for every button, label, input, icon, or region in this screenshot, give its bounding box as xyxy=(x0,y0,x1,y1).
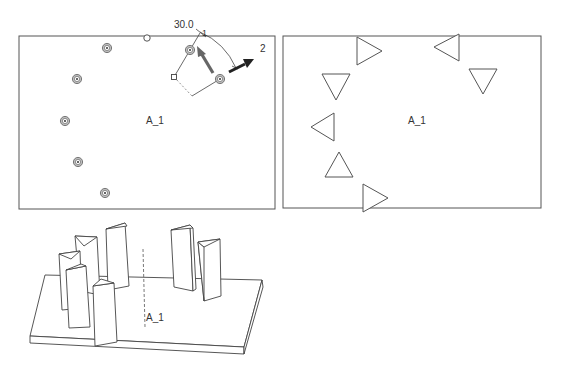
hole-marker[interactable] xyxy=(215,74,224,83)
axis-label-a1: A_1 xyxy=(146,312,164,323)
hole-marker[interactable] xyxy=(185,45,194,54)
top-view-panel: 30.0 1 2 A_1 xyxy=(19,19,275,209)
hole-marker[interactable] xyxy=(102,43,111,52)
hole-marker[interactable] xyxy=(72,74,81,83)
prism xyxy=(66,264,90,328)
hole-marker[interactable] xyxy=(100,188,109,197)
axis-label-a1: A_1 xyxy=(146,115,164,126)
hole-marker[interactable] xyxy=(60,116,69,125)
isometric-view: A_1 xyxy=(30,223,263,354)
callout-2-label: 2 xyxy=(260,43,266,54)
drawing-canvas: 30.0 1 2 A_1 A_1 xyxy=(0,0,564,372)
pattern-origin-marker[interactable] xyxy=(144,35,150,41)
prism xyxy=(171,225,196,291)
hole-marker[interactable] xyxy=(73,157,82,166)
callout-1-label: 1 xyxy=(202,28,207,38)
corner-handle[interactable] xyxy=(172,75,177,80)
pattern-view-panel: A_1 xyxy=(283,34,541,212)
prism xyxy=(93,279,117,346)
axis-label-a1: A_1 xyxy=(408,115,426,126)
angle-dimension-label[interactable]: 30.0 xyxy=(174,19,194,30)
prism xyxy=(106,223,129,290)
